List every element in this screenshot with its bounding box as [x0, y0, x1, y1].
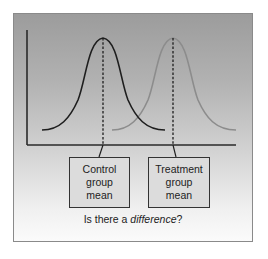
treatment-label-line-2: group — [166, 176, 193, 189]
question-emphasis: difference — [130, 213, 176, 225]
treatment-label-line-3: mean — [166, 189, 192, 202]
question-prefix: Is there a — [84, 213, 131, 225]
treatment-label-line-1: Treatment — [155, 163, 202, 176]
treatment-mean-label-box: Treatment group mean — [148, 157, 210, 208]
control-mean-label-box: Control group mean — [69, 157, 130, 208]
control-label-line-3: mean — [86, 189, 112, 202]
treatment-curve — [112, 38, 236, 130]
treatment-connector — [173, 145, 176, 157]
control-connector — [99, 145, 103, 157]
control-label-line-1: Control — [83, 163, 117, 176]
question-caption: Is there a difference? — [13, 213, 253, 225]
control-label-line-2: group — [86, 176, 113, 189]
question-suffix: ? — [176, 213, 182, 225]
